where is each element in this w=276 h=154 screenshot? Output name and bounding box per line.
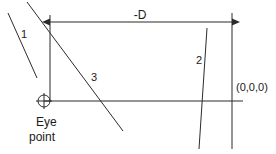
eye-point-label-line-2: point [29,130,56,144]
label-line-1: 1 [21,28,27,40]
diagram-svg: -D 1 2 3 (0,0,0) Eye point [0,0,276,154]
origin-label: (0,0,0) [236,81,268,93]
diagram-canvas: -D 1 2 3 (0,0,0) Eye point [0,0,276,154]
dimension-label: -D [134,8,147,22]
line-segment-2 [199,28,207,149]
eye-point-label-line-1: Eye [36,115,57,129]
label-line-3: 3 [91,71,97,83]
line-segment-3 [27,2,123,131]
line-segment-1 [8,13,37,78]
label-line-2: 2 [196,54,202,66]
